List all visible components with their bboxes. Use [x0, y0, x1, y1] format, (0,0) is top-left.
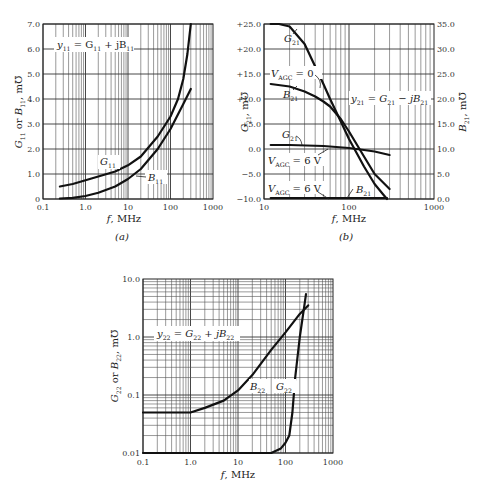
b21-label-agc0: B21 [282, 89, 298, 102]
y-tick-label-right: 10.0 [437, 145, 455, 154]
y-tick-label: 4.0 [27, 95, 40, 104]
x-tick-label: 100 [163, 203, 178, 212]
x-axis-label: f, MHz [220, 469, 255, 480]
y-tick-label-left: 0.0 [248, 145, 261, 154]
x-tick-label: 100 [278, 458, 293, 467]
y-tick-label-right: 35.0 [437, 20, 455, 29]
x-tick-label: 0.1 [37, 203, 50, 212]
y-tick-label-left: +20.0 [236, 45, 261, 54]
y-tick-label: 1.0 [27, 170, 40, 179]
figure-canvas: 01.02.03.04.05.06.07.00.11.0101001000y11… [0, 0, 485, 487]
caption-b: (b) [339, 231, 353, 242]
b21-label-agc6: B21 [355, 184, 371, 197]
curve-g22 [143, 294, 306, 453]
y-tick-label: 10.0 [122, 275, 140, 284]
y-axis-label: G11 or B11, m℧ [13, 76, 26, 148]
x-tick-label: 1.0 [184, 458, 197, 467]
y-tick-label-left: −5.0 [242, 170, 261, 179]
x-tick-label: 10 [259, 203, 269, 212]
y-axis-label-right: B21, m℧ [457, 92, 470, 132]
y-tick-label: 0.01 [122, 449, 140, 458]
y-tick-label: 5.0 [27, 70, 40, 79]
y-tick-label: 1.0 [127, 333, 140, 342]
y-tick-label-right: 30.0 [437, 45, 455, 54]
y-tick-label-left: +25.0 [236, 20, 261, 29]
x-tick-label: 0.1 [137, 458, 150, 467]
y-tick-label: 6.0 [27, 45, 40, 54]
y-axis-label: G22 or B22, m℧ [109, 330, 122, 402]
y-tick-label-left: −10.0 [236, 195, 261, 204]
y-tick-label-left: +15.0 [236, 70, 261, 79]
y-tick-label: 2.0 [27, 145, 40, 154]
y-tick-label-right: 5.0 [437, 170, 450, 179]
y-tick-label-right: 25.0 [437, 70, 455, 79]
y-tick-label: 7.0 [27, 20, 40, 29]
x-tick-label: 100 [341, 203, 356, 212]
g21-label-agc6: G21 [282, 129, 298, 142]
chart-a-y11: 01.02.03.04.05.06.07.00.11.0101001000y11… [13, 20, 223, 242]
chart-c-y22: 0.010.11.010.00.11.0101001000y22 = G22 +… [109, 275, 343, 480]
y-tick-label: 3.0 [27, 120, 40, 129]
y-axis-label-left: G21, m℧ [239, 92, 252, 132]
y-tick-label: 0.1 [127, 391, 140, 400]
y-tick-label-right: 15.0 [437, 120, 455, 129]
x-tick-label: 1000 [424, 203, 444, 212]
x-tick-label: 1000 [203, 203, 223, 212]
x-tick-label: 10 [233, 458, 243, 467]
x-axis-label: f, MHz [106, 213, 141, 224]
caption-a: (a) [115, 231, 129, 242]
x-tick-label: 1000 [323, 458, 343, 467]
chart-b-y21: −10.00.0−5.05.00.010.0+5.015.0+10.020.0+… [236, 20, 469, 242]
vagc0-label: VAGC = 0 [271, 68, 314, 81]
curve-g21-vagc-0- [271, 24, 387, 199]
x-tick-label: 10 [123, 203, 133, 212]
x-axis-label: f, MHz [331, 213, 366, 224]
y-tick-label-right: 20.0 [437, 95, 455, 104]
x-tick-label: 1.0 [79, 203, 92, 212]
